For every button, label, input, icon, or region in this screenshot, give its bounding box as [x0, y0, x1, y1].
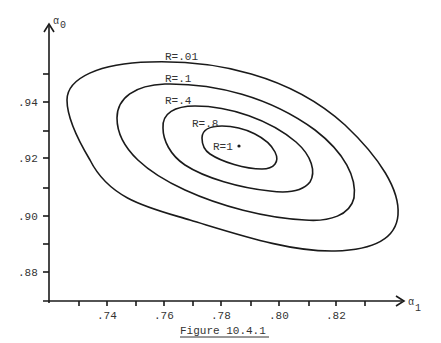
x-tick-label: .74 — [97, 310, 117, 322]
x-axis-label: α — [408, 297, 414, 308]
label-r-01: R=.1 — [165, 73, 192, 85]
y-ticks — [43, 74, 49, 272]
figure-caption: Figure 10.4.1 — [180, 325, 266, 337]
x-tick-label: .76 — [154, 310, 174, 322]
x-axis-label-sub: 1 — [415, 303, 421, 314]
center-point — [237, 144, 240, 147]
label-r-1: R=1 — [213, 141, 233, 153]
y-axis-label: α — [53, 16, 59, 27]
y-axis-label-sub: 0 — [60, 20, 66, 31]
y-tick-label: .94 — [18, 97, 38, 109]
y-tick-label: .92 — [18, 153, 38, 165]
axes: .94 .92 .90 .88 .74 .76 .78 .80 .82 α 0 … — [18, 16, 421, 322]
label-r-001: R=.01 — [165, 51, 198, 63]
label-r-08: R=.8 — [192, 118, 218, 130]
contour-r-04 — [163, 106, 313, 192]
y-tick-label: .90 — [18, 211, 38, 223]
x-tick-label: .78 — [211, 310, 231, 322]
contour-r-001 — [67, 62, 398, 251]
y-tick-label: .88 — [18, 267, 38, 279]
x-tick-label: .82 — [326, 310, 346, 322]
contour-chart: .94 .92 .90 .88 .74 .76 .78 .80 .82 α 0 … — [0, 0, 441, 343]
x-tick-label: .80 — [269, 310, 289, 322]
contours — [67, 62, 398, 251]
label-r-04: R=.4 — [165, 95, 192, 107]
